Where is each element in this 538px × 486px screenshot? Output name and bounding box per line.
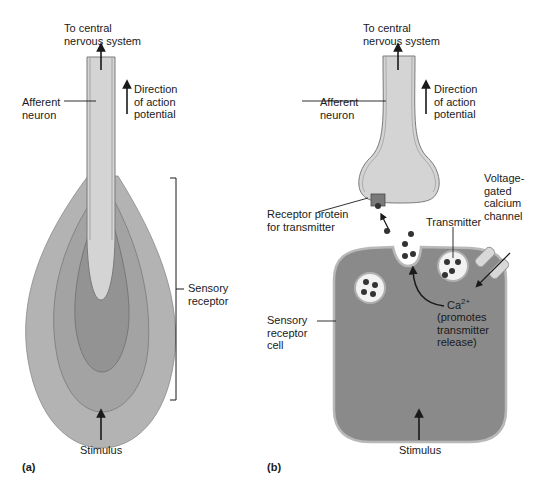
stimulus-label-b: Stimulus <box>399 444 441 457</box>
afferent-neuron-b <box>354 56 439 203</box>
afferent-label-a: Afferent neuron <box>22 96 60 121</box>
calcium-channel-label: Voltage- gated calcium channel <box>484 172 524 222</box>
afferent-label-b: Afferent neuron <box>320 96 358 121</box>
panel-label-b: (b) <box>267 461 281 473</box>
ca-label: Ca2+ <box>447 296 470 311</box>
sensory-receptor-label: Sensory receptor <box>188 282 228 307</box>
ca-note-label: (promotes transmitter release) <box>437 311 489 349</box>
diagram-canvas <box>0 0 538 486</box>
panel-label-a: (a) <box>22 461 35 473</box>
receptor-protein-label: Receptor protein for transmitter <box>267 208 348 233</box>
to-cns-label-a: To central nervous system <box>64 22 141 47</box>
afferent-neuron-a <box>87 57 115 300</box>
to-cns-label-b: To central nervous system <box>363 22 440 47</box>
direction-label-b: Direction of action potential <box>434 83 477 121</box>
transmitter-label: Transmitter <box>426 216 481 229</box>
direction-label-a: Direction of action potential <box>134 83 177 121</box>
vesicle-1 <box>355 273 385 303</box>
stimulus-label-a: Stimulus <box>80 444 122 457</box>
sensory-cell-label: Sensory receptor cell <box>267 314 307 352</box>
